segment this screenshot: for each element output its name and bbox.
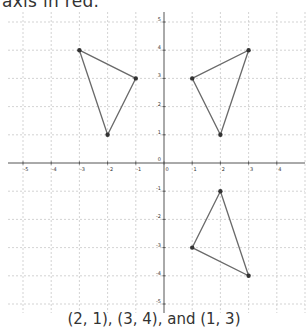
vertex-point: [218, 189, 222, 193]
vertex-point: [190, 76, 194, 80]
vertex-point: [218, 133, 222, 137]
y-tick-label: -3: [156, 242, 161, 248]
x-tick-label: -3: [80, 166, 85, 172]
vertex-point: [105, 133, 109, 137]
y-tick-label: -1: [156, 185, 161, 191]
x-tick-label: 0: [165, 166, 168, 172]
axes: [8, 12, 305, 313]
y-tick-label: -5: [156, 298, 161, 304]
x-tick-label: 1: [194, 166, 197, 172]
vertex-point: [134, 76, 138, 80]
x-tick-label: 3: [250, 166, 253, 172]
y-tick-label: 1: [158, 129, 161, 135]
y-tick-label: 2: [158, 101, 161, 107]
x-tick-label: 2: [222, 166, 225, 172]
vertex-point: [246, 48, 250, 52]
coordinate-graph: -5-4-3-2-10123454321-1-2-3-4-50: [0, 0, 308, 332]
origin-label: 0: [158, 156, 161, 162]
x-tick-label: -2: [108, 166, 113, 172]
vertex-point: [190, 245, 194, 249]
y-tick-label: 3: [158, 72, 161, 78]
y-tick-label: -2: [156, 213, 161, 219]
vertex-point: [77, 48, 81, 52]
x-tick-label: 4: [278, 166, 281, 172]
x-tick-label: -1: [136, 166, 141, 172]
x-tick-label: -4: [52, 166, 57, 172]
y-tick-label: 4: [158, 44, 161, 50]
tick-labels: -5-4-3-2-10123454321-1-2-3-4-50: [24, 16, 282, 304]
x-tick-label: -5: [24, 166, 29, 172]
answer-caption: (2, 1), (3, 4), and (1, 3): [0, 310, 308, 328]
y-tick-label: -4: [156, 270, 161, 276]
y-tick-label: 5: [158, 16, 161, 22]
vertex-point: [246, 274, 250, 278]
